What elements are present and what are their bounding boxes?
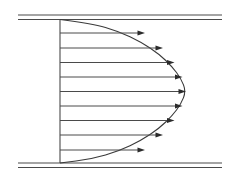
arrow-head-icon	[138, 30, 146, 35]
velocity-arrow-group	[60, 30, 186, 152]
velocity-profile-figure	[0, 0, 244, 183]
velocity-arrow	[60, 74, 183, 79]
velocity-arrow	[60, 60, 175, 65]
velocity-arrow	[60, 103, 183, 108]
velocity-arrow	[60, 132, 163, 137]
arrow-head-icon	[156, 132, 164, 137]
arrow-head-icon	[138, 147, 146, 152]
velocity-arrow	[60, 89, 186, 94]
velocity-profile-diagram	[0, 0, 244, 183]
arrow-head-icon	[167, 60, 175, 65]
arrow-head-icon	[156, 45, 164, 50]
arrow-head-icon	[175, 103, 183, 108]
velocity-arrow	[60, 147, 145, 152]
velocity-arrow	[60, 118, 175, 123]
arrow-head-icon	[167, 118, 175, 123]
velocity-arrow	[60, 30, 145, 35]
